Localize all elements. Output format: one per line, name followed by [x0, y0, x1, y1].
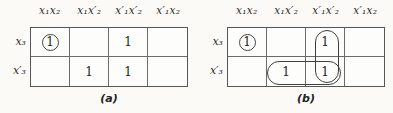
kmap-cell [148, 57, 187, 86]
kmap-cell: 1 [70, 57, 109, 86]
kmap-cell: 1 [306, 57, 345, 86]
kmap-cell: 1 [228, 28, 267, 57]
kmap-b: x₁x₂ x₁x′₂ x′₁x′₂ x′₁x₂ x₃ x′₃ 1 1 1 1 (… [197, 0, 393, 113]
cell-value: 1 [317, 63, 334, 80]
kmap-cell [267, 28, 306, 57]
cell-value: 1 [120, 34, 137, 51]
kmap-cell: 1 [267, 57, 306, 86]
cell-value: 1 [239, 34, 256, 51]
kmap-cell [345, 57, 384, 86]
row-header-x3p: x′₃ [2, 64, 26, 77]
cell-value [278, 34, 295, 51]
cell-value [356, 34, 373, 51]
caption-a: (a) [30, 92, 188, 105]
col-header-x1px2: x′₁x₂ [149, 4, 189, 16]
kmap-cell: 1 [306, 28, 345, 57]
kmap-cell [345, 28, 384, 57]
cell-value [42, 63, 59, 80]
col-header-x1px2p: x′₁x′₂ [109, 4, 149, 16]
kmap-a: x₁x₂ x₁x′₂ x′₁x′₂ x′₁x₂ x₃ x′₃ 1 1 1 1 (… [0, 0, 196, 113]
cell-value [239, 63, 256, 80]
kmap-cell: 1 [109, 28, 148, 57]
kmap-cell [70, 28, 109, 57]
cell-value [159, 63, 176, 80]
cell-value: 1 [42, 34, 59, 51]
col-header-x1x2: x₁x₂ [227, 4, 267, 16]
kmap-cell [148, 28, 187, 57]
cell-value: 1 [317, 34, 334, 51]
cell-value: 1 [120, 63, 137, 80]
kmap-cell: 1 [109, 57, 148, 86]
kmap-a-column-headers: x₁x₂ x₁x′₂ x′₁x′₂ x′₁x₂ [30, 4, 188, 16]
row-header-x3: x₃ [2, 35, 26, 48]
row-header-x3: x₃ [199, 35, 223, 48]
kmap-cell [31, 57, 70, 86]
caption-b: (b) [227, 92, 385, 105]
cell-value [159, 34, 176, 51]
col-header-x1px2p: x′₁x′₂ [306, 4, 346, 16]
kmap-cell: 1 [31, 28, 70, 57]
cell-value [81, 34, 98, 51]
col-header-x1px2: x′₁x₂ [346, 4, 386, 16]
kmap-a-grid: 1 1 1 1 [30, 27, 188, 87]
cell-value: 1 [81, 63, 98, 80]
col-header-x1x2p: x₁x′₂ [267, 4, 307, 16]
col-header-x1x2p: x₁x′₂ [70, 4, 110, 16]
kmap-cell [228, 57, 267, 86]
col-header-x1x2: x₁x₂ [30, 4, 70, 16]
kmap-b-grid: 1 1 1 1 [227, 27, 385, 87]
cell-value: 1 [278, 63, 295, 80]
kmap-figure: x₁x₂ x₁x′₂ x′₁x′₂ x′₁x₂ x₃ x′₃ 1 1 1 1 (… [0, 0, 393, 113]
cell-value [356, 63, 373, 80]
kmap-b-column-headers: x₁x₂ x₁x′₂ x′₁x′₂ x′₁x₂ [227, 4, 385, 16]
row-header-x3p: x′₃ [199, 64, 223, 77]
